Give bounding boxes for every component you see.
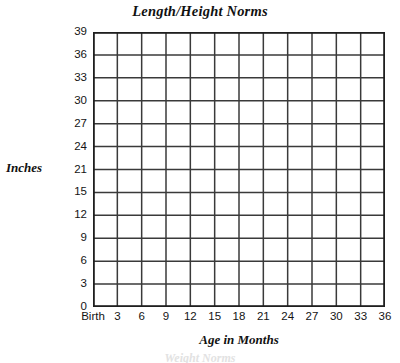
y-axis-tick-label: 33 (9, 72, 87, 83)
y-axis-tick-label: 36 (9, 49, 87, 60)
x-axis-title: Age in Months (93, 332, 385, 348)
x-axis-tick-label: 24 (281, 310, 294, 323)
y-axis-tick-label: 21 (9, 164, 87, 175)
x-axis-tick-label: 12 (184, 310, 197, 323)
plot-area (93, 32, 385, 307)
y-axis-tick-label: 9 (9, 232, 87, 243)
x-axis-tick-label: 6 (138, 310, 144, 323)
x-axis-tick-labels: Birth369121518212427303336 (0, 310, 400, 328)
y-axis-tick-labels: 3936333027242115129630 (0, 0, 87, 363)
x-axis-tick-label: Birth (81, 310, 105, 323)
y-axis-tick-label: 6 (9, 255, 87, 266)
y-axis-tick-label: 27 (9, 118, 87, 129)
y-axis-tick-label: 15 (9, 186, 87, 197)
x-axis-tick-label: 9 (163, 310, 169, 323)
x-axis-tick-label: 33 (354, 310, 367, 323)
x-axis-tick-label: 21 (257, 310, 270, 323)
y-axis-tick-label: 12 (9, 209, 87, 220)
x-axis-tick-label: 36 (379, 310, 392, 323)
y-axis-tick-label: 39 (9, 26, 87, 37)
grid-lines (93, 32, 385, 307)
y-axis-tick-label: 3 (9, 278, 87, 289)
x-axis-tick-label: 15 (208, 310, 221, 323)
y-axis-tick-label: 30 (9, 95, 87, 106)
x-axis-tick-label: 30 (330, 310, 343, 323)
x-axis-tick-label: 18 (233, 310, 246, 323)
x-axis-tick-label: 27 (306, 310, 319, 323)
x-axis-tick-label: 3 (114, 310, 120, 323)
y-axis-tick-label: 24 (9, 141, 87, 152)
